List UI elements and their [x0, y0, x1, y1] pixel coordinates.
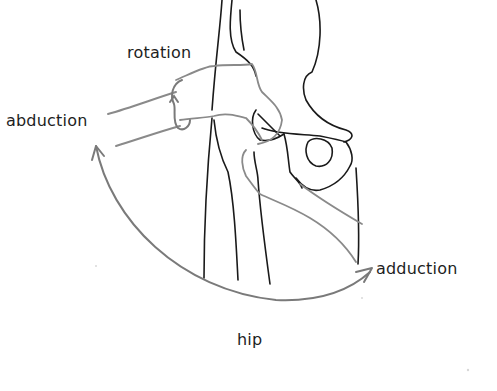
- rotation-arrow-icon: [170, 80, 190, 129]
- diagram-title: hip: [237, 330, 262, 349]
- rotation-label: rotation: [127, 43, 191, 62]
- limb-lines: [108, 92, 180, 146]
- abduction-label: abduction: [6, 111, 88, 130]
- femur-head-outline: [176, 64, 362, 262]
- speckle-marks: [95, 265, 469, 371]
- adduction-label: adduction: [376, 259, 458, 278]
- range-of-motion-arc-icon: [92, 146, 372, 300]
